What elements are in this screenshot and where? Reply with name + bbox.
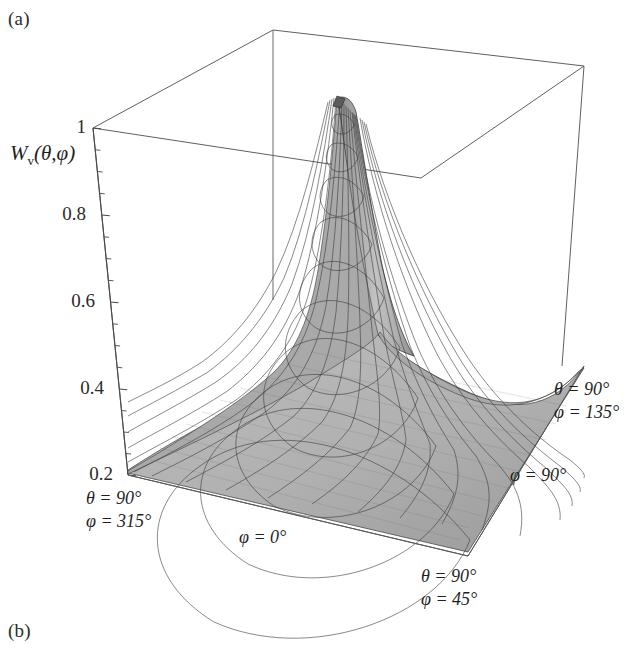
z-axis-title-args: (θ,φ) [34,141,75,165]
corner-label-back-left-theta: θ = 90° [86,487,151,510]
z-tick-label-0.4: 0.4 [52,377,104,399]
z-axis-title-symbol: W [10,141,28,165]
z-axis-line [93,128,128,475]
corner-label-front-right: θ = 90° φ = 45° [421,565,477,611]
z-tick-major-0.6 [111,302,119,303]
z-axis [93,128,136,476]
z-tick-major-0.4 [119,389,127,390]
surface-plot-canvas [0,0,632,655]
edge-label-right: φ = 90° [510,464,566,487]
edge-label-front-left: φ = 0° [239,526,286,549]
z-tick-major-0.8 [102,215,110,216]
z-tick-label-0.6: 0.6 [43,290,95,312]
z-tick-label-1: 1 [48,116,86,138]
corner-label-front-right-phi: φ = 45° [421,588,477,611]
corner-label-back-left: θ = 90° φ = 315° [86,487,151,533]
z-axis-title: Wv(θ,φ) [10,141,75,169]
corner-label-right-upper-theta: θ = 90° [554,378,619,401]
box-edge-right-vertical [562,66,584,366]
z-tick-label-0.2: 0.2 [61,463,113,485]
z-tick-label-0.8: 0.8 [34,203,86,225]
figure-panel-a: (a) [0,0,632,655]
corner-label-right-upper-phi: φ = 135° [554,401,619,424]
surface-mesh [128,96,584,638]
panel-b-label: (b) [8,620,31,642]
corner-label-back-left-phi: φ = 315° [86,510,151,533]
corner-label-front-right-theta: θ = 90° [421,565,477,588]
corner-label-right-upper: θ = 90° φ = 135° [554,378,619,424]
